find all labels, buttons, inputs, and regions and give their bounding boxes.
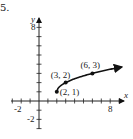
data-point <box>64 81 68 85</box>
data-point <box>90 71 94 75</box>
data-point <box>55 90 59 94</box>
point-label: (3, 2) <box>51 70 70 80</box>
y-tick-label-8: 8 <box>31 22 36 32</box>
point-label: (6, 3) <box>80 60 100 70</box>
y-tick-label-neg2: -2 <box>27 114 35 124</box>
graph: x y -2 8 8 -2 (2, 1)(3, 2)(6, 3) <box>0 0 133 139</box>
x-axis-label: x <box>123 90 128 100</box>
x-tick-label-neg2: -2 <box>14 104 22 114</box>
x-tick-label-8: 8 <box>108 104 113 114</box>
point-label: (2, 1) <box>60 87 80 97</box>
